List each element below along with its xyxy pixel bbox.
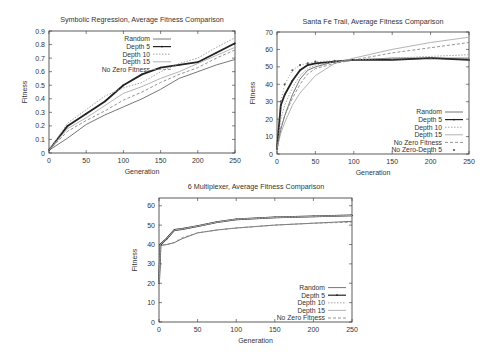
legend-label: No Zero Fitness (394, 139, 443, 146)
x-axis-label: Generation (356, 169, 391, 176)
y-tick-label: 50 (147, 222, 155, 229)
y-tick-label: 60 (265, 46, 273, 53)
chart-title: 6 Multiplexer, Average Fitness Compariso… (188, 182, 325, 191)
y-axis-label: Fitness (249, 81, 256, 104)
x-tick-label: 100 (118, 157, 130, 164)
y-tick-label: 0.5 (35, 82, 45, 89)
series-line (159, 215, 352, 283)
series-line (159, 222, 352, 283)
legend-label: No Zero-Depth 5 (391, 146, 442, 154)
y-tick-label: 10 (265, 133, 273, 140)
y-tick-label: 70 (265, 29, 273, 36)
x-tick-label: 100 (348, 158, 360, 165)
legend-label: Random (299, 284, 325, 291)
x-tick-label: 200 (308, 326, 320, 333)
series-line (49, 60, 235, 151)
x-tick-label: 200 (425, 158, 437, 165)
x-tick-label: 250 (463, 158, 475, 165)
chart-title: Santa Fe Trail, Average Fitness Comparis… (303, 17, 444, 26)
y-tick-label: 0.2 (35, 122, 45, 129)
x-tick-label: 0 (157, 326, 161, 333)
y-tick-label: 0 (269, 151, 273, 158)
series-line (159, 221, 352, 283)
y-tick-label: 0.8 (35, 41, 45, 48)
series-line (159, 215, 352, 283)
legend-label: No Zero Fitness (277, 314, 326, 321)
y-tick-label: 10 (147, 299, 155, 306)
y-tick-label: 0.6 (35, 68, 45, 75)
x-tick-label: 200 (192, 157, 204, 164)
x-tick-label: 250 (346, 326, 358, 333)
x-tick-label: 0 (275, 158, 279, 165)
y-axis-label: Fitness (131, 248, 138, 271)
legend-label: No Zero Fitness (102, 66, 151, 73)
series-line (159, 215, 352, 283)
figure-canvas: Symbolic Regression, Average Fitness Com… (0, 0, 492, 362)
legend-label: Random (416, 108, 442, 115)
y-tick-label: 20 (265, 116, 273, 123)
y-tick-label: 0.4 (35, 95, 45, 102)
y-axis-label: Fitness (21, 80, 28, 103)
y-tick-label: 20 (147, 280, 155, 287)
x-tick-label: 150 (386, 158, 398, 165)
y-tick-label: 50 (265, 63, 273, 70)
x-tick-label: 50 (194, 326, 202, 333)
x-tick-label: 0 (47, 157, 51, 164)
y-tick-label: 0.9 (35, 28, 45, 35)
y-tick-label: 40 (147, 241, 155, 248)
y-tick-label: 30 (147, 260, 155, 267)
chart-1: Symbolic Regression, Average Fitness Com… (21, 15, 241, 175)
x-tick-label: 100 (230, 326, 242, 333)
x-tick-label: 150 (269, 326, 281, 333)
y-tick-label: 30 (265, 98, 273, 105)
y-tick-label: 0 (151, 319, 155, 326)
legend-marker (453, 149, 455, 151)
y-tick-label: 0 (41, 150, 45, 157)
x-axis-label: Generation (125, 168, 160, 175)
chart-3: 6 Multiplexer, Average Fitness Compariso… (131, 182, 358, 344)
x-tick-label: 50 (82, 157, 90, 164)
y-tick-label: 0.7 (35, 55, 45, 62)
legend-label: Random (124, 35, 150, 42)
y-tick-label: 60 (147, 202, 155, 209)
chart-2: Santa Fe Trail, Average Fitness Comparis… (249, 17, 475, 176)
x-tick-label: 50 (312, 158, 320, 165)
chart-title: Symbolic Regression, Average Fitness Com… (60, 15, 224, 24)
x-axis-label: Generation (238, 337, 273, 344)
x-tick-label: 150 (155, 157, 167, 164)
y-tick-label: 0.1 (35, 136, 45, 143)
y-tick-label: 0.3 (35, 109, 45, 116)
y-tick-label: 40 (265, 81, 273, 88)
x-tick-label: 250 (229, 157, 241, 164)
